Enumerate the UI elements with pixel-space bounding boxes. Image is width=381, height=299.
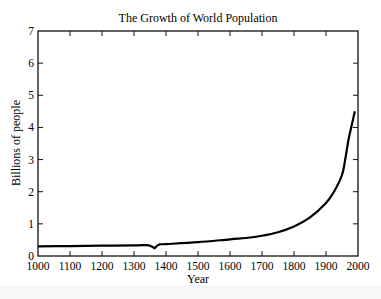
chart-title: The Growth of World Population bbox=[119, 11, 278, 25]
x-tick-label: 1500 bbox=[187, 260, 210, 272]
y-tick-label: 3 bbox=[28, 154, 34, 166]
x-tick-label: 1700 bbox=[251, 260, 274, 272]
y-tick-label: 2 bbox=[28, 186, 34, 198]
x-tick-label: 1900 bbox=[315, 260, 338, 272]
population-chart: The Growth of World Population 100011001… bbox=[0, 0, 381, 299]
x-axis-label: Year bbox=[187, 272, 209, 286]
y-axis: 01234567 bbox=[28, 25, 358, 262]
y-tick-label: 6 bbox=[28, 57, 34, 69]
x-tick-label: 1200 bbox=[91, 260, 114, 272]
x-tick-label: 1800 bbox=[283, 260, 306, 272]
x-axis: 1000110012001300140015001600170018001900… bbox=[27, 31, 370, 272]
series-group bbox=[38, 111, 355, 248]
y-tick-label: 5 bbox=[28, 89, 34, 101]
y-tick-label: 4 bbox=[28, 121, 34, 133]
plot-frame bbox=[38, 31, 358, 256]
y-tick-label: 7 bbox=[28, 25, 34, 37]
y-axis-label: Billions of people bbox=[9, 100, 23, 186]
x-tick-label: 2000 bbox=[347, 260, 370, 272]
x-tick-label: 1300 bbox=[123, 260, 146, 272]
y-tick-label: 1 bbox=[28, 218, 34, 230]
y-tick-label: 0 bbox=[28, 250, 34, 262]
x-tick-label: 1100 bbox=[59, 260, 82, 272]
x-tick-label: 1400 bbox=[155, 260, 178, 272]
population-line bbox=[38, 111, 355, 248]
x-tick-label: 1600 bbox=[219, 260, 242, 272]
